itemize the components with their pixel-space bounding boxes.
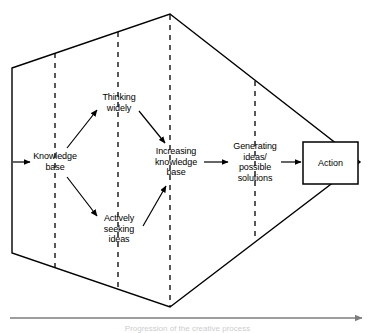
node-label-thinking-widely: Thinking widely (86, 92, 152, 113)
bottom-axis-caption: Progression of the creative process (0, 324, 375, 333)
arrow-knowledge-base-to-actively-seeking (67, 177, 97, 216)
arrow-knowledge-base-to-thinking-widely (67, 110, 97, 148)
action-box-label: Action (303, 158, 358, 169)
node-label-increasing-knowledge-base: Increasing knowledge base (141, 146, 211, 178)
node-label-knowledge-base: Knowledge base (19, 151, 91, 172)
arrow-thinking-widely-to-increasing-knowledge (139, 111, 165, 143)
node-label-actively-seeking-ideas: Actively seeking ideas (88, 213, 150, 245)
node-label-generating-ideas: Generating ideas/ possible solutions (221, 141, 289, 183)
